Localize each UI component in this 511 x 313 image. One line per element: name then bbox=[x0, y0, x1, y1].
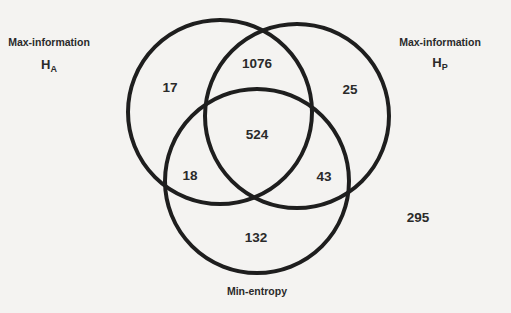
symbol-subscript-a: A bbox=[50, 64, 57, 74]
set-label-max-information-hp: Max-information bbox=[399, 37, 481, 48]
region-count-ha-only: 17 bbox=[162, 81, 177, 95]
circle-max-information-ha bbox=[128, 20, 312, 204]
circle-max-information-hp bbox=[205, 24, 389, 208]
set-symbol-hp: HP bbox=[432, 56, 447, 72]
region-count-hp-min-entropy: 43 bbox=[316, 170, 331, 184]
region-count-all-three: 524 bbox=[246, 128, 269, 142]
symbol-subscript-p: P bbox=[442, 62, 448, 72]
region-count-min-entropy-only: 132 bbox=[245, 231, 268, 245]
region-count-ha-hp: 1076 bbox=[242, 57, 272, 71]
region-count-outside: 295 bbox=[407, 211, 430, 225]
set-label-max-information-ha: Max-information bbox=[8, 37, 90, 48]
region-count-hp-only: 25 bbox=[342, 83, 357, 97]
set-symbol-ha: HA bbox=[41, 58, 57, 74]
region-count-ha-min-entropy: 18 bbox=[182, 169, 197, 183]
set-label-min-entropy: Min-entropy bbox=[227, 286, 287, 297]
symbol-h: H bbox=[432, 55, 441, 70]
symbol-h: H bbox=[41, 57, 50, 72]
venn-diagram: Max-information HA Max-information HP Mi… bbox=[0, 0, 511, 313]
